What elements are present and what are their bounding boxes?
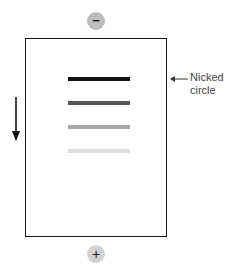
band-band-2 xyxy=(68,101,130,105)
negative-electrode-icon: − xyxy=(87,12,105,30)
down-arrow-icon xyxy=(10,97,22,143)
left-arrow-icon xyxy=(169,73,189,85)
positive-electrode-icon: + xyxy=(87,245,105,263)
band-band-4 xyxy=(68,149,130,153)
nicked-circle-label: Nicked circle xyxy=(190,71,224,97)
band-band-3 xyxy=(68,125,130,129)
band-nicked-circle xyxy=(68,77,130,81)
gel-box xyxy=(25,38,167,237)
